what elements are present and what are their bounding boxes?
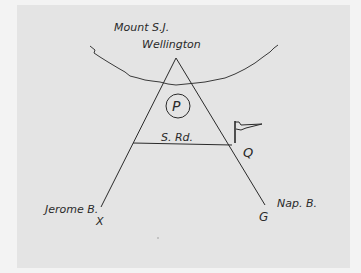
label-parking: P	[172, 98, 181, 114]
label-jerome-branch: Jerome B.	[43, 203, 98, 216]
hand-drawn-map: Mount S.J. Wellington P S. Rd. Q Jerome …	[0, 0, 361, 273]
paper-speck	[157, 237, 158, 238]
flag-icon	[235, 121, 262, 143]
diagram-page: Mount S.J. Wellington P S. Rd. Q Jerome …	[0, 0, 361, 273]
label-nap-branch: Nap. B.	[277, 197, 317, 210]
mountain-ridge-curve	[90, 45, 278, 85]
label-point-x: X	[95, 215, 104, 228]
label-point-q: Q	[243, 145, 253, 160]
label-road: S. Rd.	[161, 131, 193, 144]
label-mountain-line2: Wellington	[142, 38, 201, 51]
label-mountain-line1: Mount S.J.	[114, 21, 169, 34]
left-end-tick	[101, 203, 103, 207]
label-point-g: G	[259, 210, 268, 224]
